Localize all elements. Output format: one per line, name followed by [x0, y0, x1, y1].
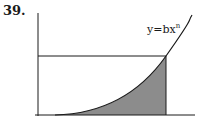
area-under-curve-diagram: y=bxn: [0, 0, 205, 124]
curve-label: y=bxn: [146, 22, 181, 36]
shaded-region: [55, 56, 166, 115]
